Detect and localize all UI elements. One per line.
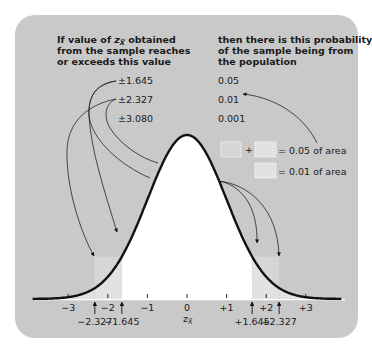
critical-marker-label: −1.645 — [104, 316, 139, 327]
critical-marker-label: +2.327 — [262, 316, 297, 327]
legend-swatch-dotted-2 — [255, 163, 276, 178]
probability-005: 0.05 — [218, 75, 239, 86]
critical-value-2327: ±2.327 — [118, 94, 153, 105]
axis-tick-label: −2 — [101, 302, 115, 313]
legend-swatch-dotted — [255, 142, 276, 157]
axis-tick-label: +1 — [220, 302, 234, 313]
probability-001: 0.01 — [218, 94, 239, 105]
axis-tick-label: +3 — [299, 302, 313, 313]
right-header-line2: of the sample being from — [218, 45, 354, 56]
left-header-line3: or exceeds this value — [57, 56, 171, 67]
critical-value-1645: ±1.645 — [118, 75, 153, 86]
left-header-line2: from the sample reaches — [57, 45, 191, 56]
probability-0001: 0.001 — [218, 113, 245, 124]
legend-plus: + — [245, 144, 253, 155]
critical-value-3080: ±3.080 — [118, 113, 153, 124]
axis-tick-label: −3 — [61, 302, 75, 313]
right-header-line1: then there is this probability — [218, 34, 372, 45]
legend-label-001: = 0.01 of area — [278, 166, 347, 177]
axis-tick-label: −1 — [140, 302, 154, 313]
normal-distribution-diagram: If value of zX̅ obtained from the sample… — [0, 0, 372, 349]
axis-tick-label: +2 — [259, 302, 273, 313]
legend-label-005: = 0.05 of area — [278, 145, 347, 156]
axis-tick-label: 0 — [184, 302, 190, 313]
legend-swatch-light — [221, 142, 241, 157]
right-header-line3: the population — [218, 56, 297, 67]
